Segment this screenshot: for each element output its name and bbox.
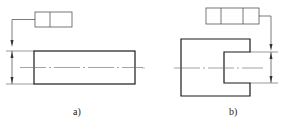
leader-line-a: [12, 20, 35, 45]
leader-arrow-a: [11, 40, 14, 47]
figure-a: [6, 12, 143, 84]
feature-control-frame-b: [206, 8, 259, 24]
part-outline-b: [181, 39, 250, 96]
leader-line-b: [259, 16, 271, 45]
drawing-canvas: [0, 0, 282, 128]
leader-arrow-b: [270, 44, 273, 51]
figure-b: [142, 8, 278, 96]
feature-control-frame-a: [35, 12, 72, 27]
caption-b: b): [229, 107, 237, 117]
caption-a: a): [73, 107, 81, 117]
